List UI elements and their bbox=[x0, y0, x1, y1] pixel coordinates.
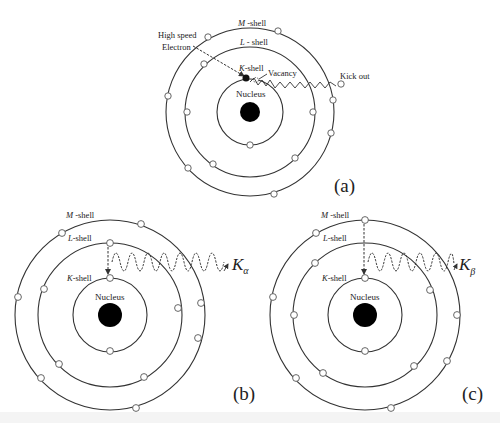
electron bbox=[313, 230, 320, 237]
kick-out-label: Kick out bbox=[340, 71, 370, 81]
electron bbox=[165, 93, 171, 99]
electron bbox=[185, 165, 191, 171]
electron bbox=[292, 155, 298, 161]
electron bbox=[107, 275, 114, 282]
high-speed-label-line1: High speed bbox=[158, 30, 197, 40]
incoming-electron-path bbox=[193, 46, 244, 76]
electron bbox=[198, 300, 205, 307]
electron bbox=[247, 142, 253, 148]
kicked-out-electron bbox=[338, 81, 344, 87]
k-beta-arrow bbox=[454, 264, 457, 270]
electron bbox=[15, 294, 22, 301]
k-shell-label-a: K-shell bbox=[238, 63, 264, 73]
electron bbox=[175, 305, 182, 312]
electron bbox=[362, 275, 369, 282]
k-alpha-label: Kα bbox=[231, 255, 249, 276]
electron bbox=[454, 312, 461, 319]
m-shell-label-c: M -shell bbox=[320, 210, 350, 220]
electron bbox=[312, 260, 319, 267]
k-alpha-photon-wave bbox=[112, 253, 224, 271]
electron bbox=[195, 335, 202, 342]
electron bbox=[41, 286, 48, 293]
figure-canvas: M -shell L - shell K-shell Nucleus High … bbox=[0, 0, 500, 423]
l-shell-label-a: L - shell bbox=[239, 37, 269, 47]
vacancy-label: Vacancy bbox=[268, 68, 298, 78]
k-alpha-arrow bbox=[224, 264, 228, 271]
m-shell-label-a: M -shell bbox=[237, 18, 267, 28]
k-beta-photon-wave bbox=[368, 253, 454, 271]
nucleus-label-c: Nucleus bbox=[350, 292, 380, 302]
panel-label-c: (c) bbox=[462, 383, 483, 405]
nucleus-c bbox=[353, 303, 377, 327]
electron bbox=[310, 109, 316, 115]
electron bbox=[362, 348, 369, 355]
nucleus-a bbox=[240, 102, 260, 122]
electron bbox=[291, 312, 298, 319]
electron bbox=[107, 348, 114, 355]
electron bbox=[330, 97, 336, 103]
electron bbox=[184, 109, 190, 115]
electron bbox=[362, 217, 369, 224]
panel-label-b: (b) bbox=[233, 383, 255, 405]
l-shell-label-b: L-shell bbox=[67, 233, 92, 243]
bottom-band bbox=[0, 412, 500, 423]
electron bbox=[201, 61, 207, 67]
electron bbox=[59, 230, 66, 237]
nucleus-label-b: Nucleus bbox=[95, 292, 125, 302]
electron bbox=[141, 374, 148, 381]
electron bbox=[138, 221, 145, 228]
vacancy-pointer bbox=[259, 74, 267, 79]
k-shell-label-b: K-shell bbox=[66, 273, 92, 283]
electron bbox=[388, 405, 395, 412]
electron bbox=[38, 375, 45, 382]
electron bbox=[293, 375, 300, 382]
electron bbox=[210, 161, 216, 167]
electron bbox=[270, 294, 277, 301]
panel-b: M -shell L-shell K-shell Nucleus Kα (b) bbox=[15, 210, 256, 411]
panel-label-a: (a) bbox=[334, 175, 355, 197]
electron bbox=[320, 370, 327, 377]
atomic-shell-figure: M -shell L - shell K-shell Nucleus High … bbox=[0, 0, 500, 423]
electron bbox=[427, 287, 434, 294]
high-speed-electron bbox=[243, 75, 250, 82]
nucleus-b bbox=[98, 303, 122, 327]
panel-c: M -shell L-shell K-shell Nucleus Kβ (c) bbox=[270, 210, 483, 411]
nucleus-label-a: Nucleus bbox=[236, 89, 266, 99]
ejected-electron-path bbox=[250, 78, 336, 88]
electron bbox=[133, 405, 140, 412]
electron bbox=[271, 191, 277, 197]
electron bbox=[411, 363, 418, 370]
electron bbox=[56, 361, 63, 368]
k-beta-label: Kβ bbox=[458, 255, 475, 277]
electron bbox=[275, 28, 281, 34]
l-shell-label-c: L-shell bbox=[322, 233, 347, 243]
electron bbox=[328, 130, 334, 136]
k-shell-label-c: K-shell bbox=[321, 273, 347, 283]
panel-a: M -shell L - shell K-shell Nucleus High … bbox=[158, 18, 370, 197]
electron bbox=[205, 34, 211, 40]
m-shell-label-b: M -shell bbox=[65, 210, 95, 220]
high-speed-label-line2: Electron bbox=[162, 42, 192, 52]
electron bbox=[107, 240, 114, 247]
electron bbox=[444, 358, 451, 365]
